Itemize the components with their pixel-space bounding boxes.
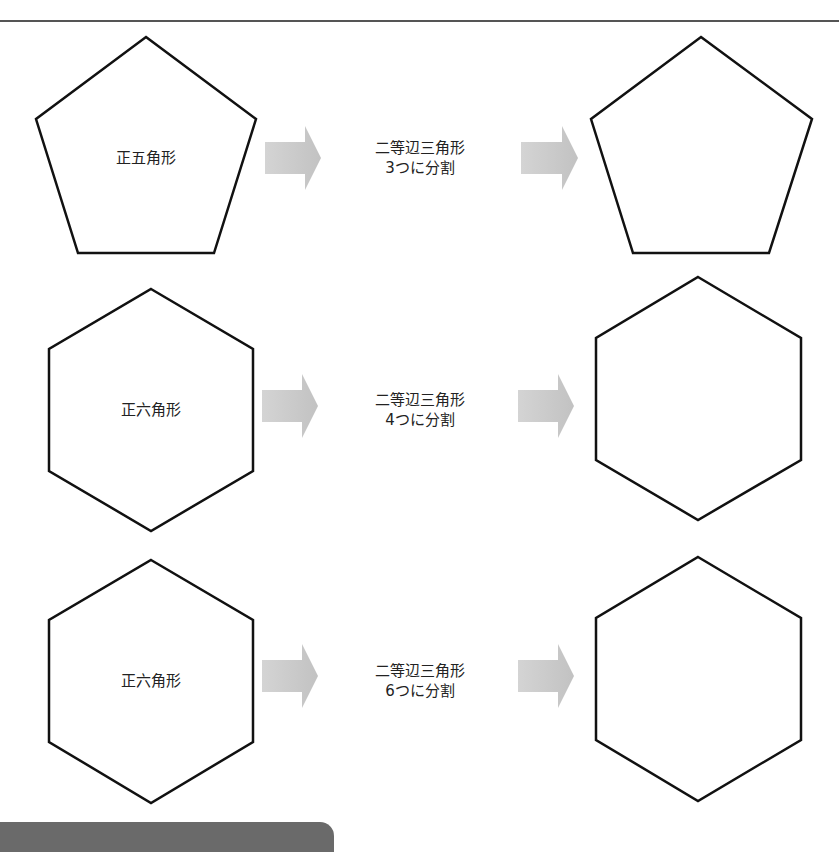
- source-shape-label: 正六角形: [121, 400, 181, 420]
- step-line-2: 4つに分割: [375, 410, 465, 430]
- arrow-icon: [518, 374, 574, 438]
- step-line-1: 二等辺三角形: [375, 390, 465, 410]
- step-description: 二等辺三角形 4つに分割: [375, 390, 465, 430]
- step-description: 二等辺三角形 6つに分割: [375, 661, 465, 701]
- source-pentagon: [36, 37, 256, 253]
- arrow-icon: [265, 126, 321, 190]
- step-line-1: 二等辺三角形: [375, 138, 465, 158]
- source-shape-label: 正六角形: [121, 671, 181, 691]
- result-hexagon: [596, 277, 801, 520]
- arrow-icon: [262, 374, 318, 438]
- source-shape-label: 正五角形: [116, 148, 176, 168]
- arrow-icon: [262, 644, 318, 708]
- step-description: 二等辺三角形 3つに分割: [375, 138, 465, 178]
- footer-tab: [0, 822, 334, 852]
- arrow-icon: [521, 126, 578, 190]
- step-line-2: 3つに分割: [375, 158, 465, 178]
- step-line-1: 二等辺三角形: [375, 661, 465, 681]
- arrow-icon: [518, 644, 574, 708]
- result-hexagon: [596, 557, 801, 801]
- result-pentagon: [591, 37, 812, 253]
- step-line-2: 6つに分割: [375, 681, 465, 701]
